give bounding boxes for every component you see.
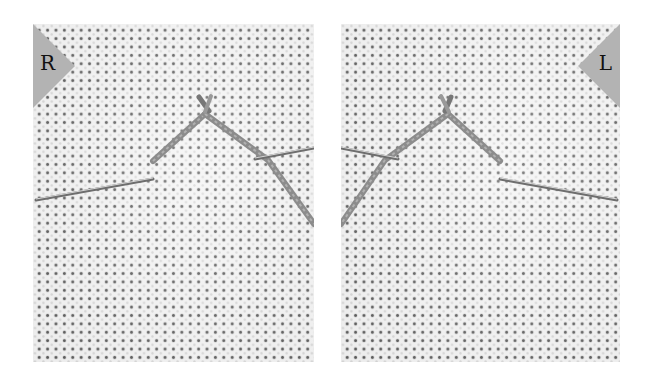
corner-label: L [599,53,612,73]
fabric-photo-left-handed: L [341,24,620,362]
fabric-photo-right-handed: R [33,24,314,362]
corner-badge-r: R [33,24,77,108]
corner-badge-l: L [576,24,620,108]
corner-label: R [40,53,55,73]
